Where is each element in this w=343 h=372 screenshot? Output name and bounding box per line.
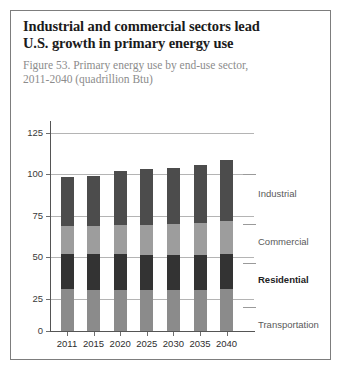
bar-segment-transportation-2011 <box>61 289 74 331</box>
bar-segment-industrial-2015 <box>87 176 100 226</box>
bar-segment-transportation-2035 <box>194 290 207 331</box>
bar-2030 <box>167 121 180 331</box>
bar-segment-commercial-2030 <box>167 224 180 255</box>
bar-segment-residential-2015 <box>87 254 100 290</box>
bar-2025 <box>140 121 153 331</box>
y-axis-line <box>50 121 51 332</box>
ytick-75: 75 <box>11 210 43 221</box>
xtick-label-2040: 2040 <box>210 338 244 349</box>
xtick-mark-2011 <box>67 332 68 336</box>
xtick-mark-2015 <box>94 332 95 336</box>
ytick-50: 50 <box>11 251 43 262</box>
bar-segment-commercial-2015 <box>87 226 100 255</box>
xtick-mark-2035 <box>200 332 201 336</box>
bar-segment-transportation-2030 <box>167 290 180 331</box>
bar-segment-transportation-2025 <box>140 290 153 331</box>
bar-segment-residential-2011 <box>61 254 74 289</box>
ytick-125-label: 125 <box>17 127 43 138</box>
ytick-50-label: 50 <box>17 251 43 262</box>
xtick-mark-2030 <box>173 332 174 336</box>
legend-label-commercial: Commercial <box>258 236 309 247</box>
xtick-mark-2020 <box>120 332 121 336</box>
figure-card: Industrial and commercial sectors lead U… <box>10 10 331 360</box>
legend-label-transportation: Transportation <box>258 319 319 330</box>
bar-segment-industrial-2025 <box>140 169 153 224</box>
legend-label-residential: Residential <box>258 274 309 285</box>
x-axis-line <box>50 331 255 332</box>
bar-2015 <box>87 121 100 331</box>
bar-segment-transportation-2020 <box>114 290 127 331</box>
bar-segment-commercial-2025 <box>140 225 153 255</box>
ytick-25-label: 25 <box>17 293 43 304</box>
bar-2020 <box>114 121 127 331</box>
leader-industrial <box>243 174 256 175</box>
xtick-mark-2040 <box>227 332 228 336</box>
leader-residential <box>243 263 256 264</box>
ytick-0-label: 0 <box>17 325 43 336</box>
bar-segment-commercial-2020 <box>114 225 127 254</box>
ytick-75-label: 75 <box>17 210 43 221</box>
bar-segment-commercial-2040 <box>220 221 233 254</box>
ytick-125: 125 <box>11 127 43 138</box>
leader-commercial <box>243 224 256 225</box>
bar-segment-residential-2025 <box>140 255 153 290</box>
bar-segment-transportation-2040 <box>220 289 233 331</box>
bar-segment-industrial-2040 <box>220 160 233 221</box>
bar-segment-transportation-2015 <box>87 290 100 331</box>
bar-2035 <box>194 121 207 331</box>
legend-label-industrial: Industrial <box>258 188 297 199</box>
bar-segment-commercial-2035 <box>194 223 207 255</box>
ytick-100-label: 100 <box>17 168 43 179</box>
bar-segment-residential-2020 <box>114 254 127 290</box>
ytick-0: 0 <box>11 325 43 336</box>
leader-transportation <box>243 307 256 308</box>
bar-segment-industrial-2020 <box>114 171 127 225</box>
bar-segment-residential-2030 <box>167 255 180 290</box>
bar-2011 <box>61 121 74 331</box>
bar-2040 <box>220 121 233 331</box>
ytick-100: 100 <box>11 168 43 179</box>
bar-segment-residential-2040 <box>220 254 233 289</box>
bar-segment-industrial-2030 <box>167 168 180 224</box>
xtick-mark-2025 <box>147 332 148 336</box>
bar-segment-industrial-2035 <box>194 165 207 223</box>
ytick-25: 25 <box>11 293 43 304</box>
bar-segment-industrial-2011 <box>61 177 74 226</box>
bar-segment-commercial-2011 <box>61 226 74 254</box>
chart-plot-area: 125 100 75 50 25 0 201120152020202520302… <box>11 11 332 361</box>
bar-segment-residential-2035 <box>194 255 207 290</box>
